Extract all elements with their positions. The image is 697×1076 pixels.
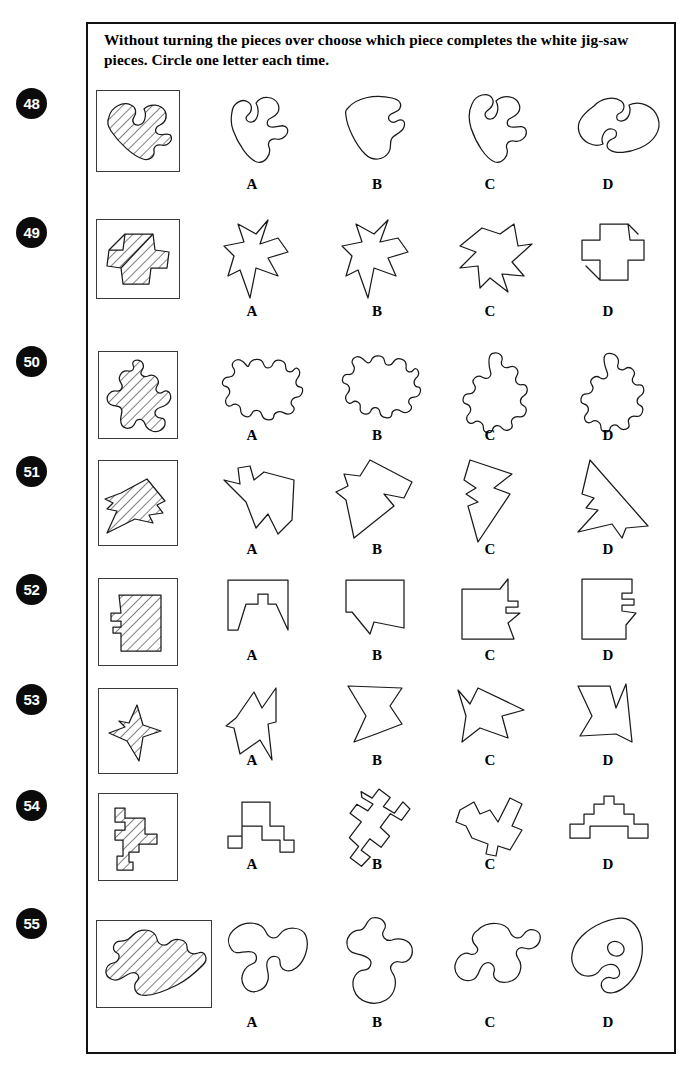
option-letter-48-a: A xyxy=(232,176,272,193)
stimulus-box-53 xyxy=(98,688,178,774)
option-letter-50-c: C xyxy=(470,427,510,444)
question-number-label: 48 xyxy=(23,95,39,112)
option-letter-48-b: B xyxy=(357,176,397,193)
question-number-label: 55 xyxy=(23,915,39,932)
option-letter-52-a: A xyxy=(232,647,272,664)
option-shape-52-a[interactable] xyxy=(224,578,292,634)
option-shape-51-a[interactable] xyxy=(220,458,300,542)
option-letter-54-a: A xyxy=(232,856,272,873)
option-shape-52-c[interactable] xyxy=(458,575,524,643)
option-letter-53-b: B xyxy=(357,752,397,769)
question-number-label: 49 xyxy=(23,224,39,241)
option-shape-53-c[interactable] xyxy=(454,684,526,746)
question-number-51: 51 xyxy=(16,456,47,487)
stimulus-box-52 xyxy=(98,578,178,666)
question-number-label: 54 xyxy=(23,797,39,814)
option-letter-53-c: C xyxy=(470,752,510,769)
option-letter-55-b: B xyxy=(357,1014,397,1031)
option-letter-48-c: C xyxy=(470,176,510,193)
question-number-52: 52 xyxy=(16,574,47,605)
option-shape-48-c[interactable] xyxy=(458,86,532,174)
option-shape-49-c[interactable] xyxy=(452,218,534,302)
option-letter-55-d: D xyxy=(588,1014,628,1031)
question-number-label: 51 xyxy=(23,463,39,480)
option-shape-55-c[interactable] xyxy=(452,918,542,998)
option-letter-53-a: A xyxy=(232,752,272,769)
option-shape-50-d[interactable] xyxy=(580,346,650,440)
option-shape-51-d[interactable] xyxy=(568,454,656,544)
option-shape-51-c[interactable] xyxy=(456,452,524,546)
stimulus-box-50 xyxy=(98,351,178,439)
hatched-jigsaw-piece-55 xyxy=(97,921,213,1009)
question-number-54: 54 xyxy=(16,790,47,821)
hatched-jigsaw-piece-54 xyxy=(99,794,179,882)
option-shape-54-b[interactable] xyxy=(336,786,414,866)
option-shape-53-d[interactable] xyxy=(570,682,636,750)
option-letter-54-b: B xyxy=(357,856,397,873)
hatched-jigsaw-piece-48 xyxy=(97,91,181,173)
option-letter-54-d: D xyxy=(588,856,628,873)
question-number-50: 50 xyxy=(16,346,47,377)
option-shape-53-b[interactable] xyxy=(338,682,406,752)
option-shape-55-a[interactable] xyxy=(226,918,310,1000)
option-shape-50-c[interactable] xyxy=(462,344,532,440)
hatched-jigsaw-piece-52 xyxy=(99,579,179,667)
option-shape-49-a[interactable] xyxy=(220,214,296,306)
question-number-49: 49 xyxy=(16,217,47,248)
question-number-label: 50 xyxy=(23,353,39,370)
option-letter-50-b: B xyxy=(357,427,397,444)
option-letter-49-a: A xyxy=(232,303,272,320)
option-letter-52-c: C xyxy=(470,647,510,664)
option-letter-50-d: D xyxy=(588,427,628,444)
hatched-jigsaw-piece-49 xyxy=(97,220,181,300)
hatched-jigsaw-piece-50 xyxy=(99,352,179,440)
question-number-label: 53 xyxy=(23,691,39,708)
option-shape-49-d[interactable] xyxy=(572,216,650,296)
question-number-55: 55 xyxy=(16,908,47,939)
option-shape-54-c[interactable] xyxy=(452,788,528,866)
option-shape-48-d[interactable] xyxy=(574,92,662,170)
option-letter-51-d: D xyxy=(588,541,628,558)
option-shape-49-b[interactable] xyxy=(336,214,412,306)
stimulus-box-48 xyxy=(96,90,180,172)
option-letter-49-c: C xyxy=(470,303,510,320)
worksheet-page: Without turning the pieces over choose w… xyxy=(0,0,697,1076)
option-letter-50-a: A xyxy=(232,427,272,444)
option-shape-54-a[interactable] xyxy=(224,792,296,856)
option-shape-52-b[interactable] xyxy=(342,578,408,636)
hatched-jigsaw-piece-51 xyxy=(99,461,179,547)
option-shape-52-d[interactable] xyxy=(578,575,642,643)
option-shape-55-b[interactable] xyxy=(344,912,420,1008)
option-letter-51-a: A xyxy=(232,541,272,558)
option-letter-48-d: D xyxy=(588,176,628,193)
stimulus-box-51 xyxy=(98,460,178,546)
option-shape-51-b[interactable] xyxy=(336,454,418,546)
stimulus-box-49 xyxy=(96,219,180,299)
hatched-jigsaw-piece-53 xyxy=(99,689,179,775)
option-letter-53-d: D xyxy=(588,752,628,769)
stimulus-box-54 xyxy=(98,793,178,881)
option-shape-50-b[interactable] xyxy=(342,350,424,424)
option-letter-54-c: C xyxy=(470,856,510,873)
option-letter-51-b: B xyxy=(357,541,397,558)
instructions-line: Without turning the pieces over choose w… xyxy=(104,31,628,68)
question-number-48: 48 xyxy=(16,88,47,119)
option-letter-49-b: B xyxy=(357,303,397,320)
question-number-label: 52 xyxy=(23,581,39,598)
option-letter-52-b: B xyxy=(357,647,397,664)
option-shape-55-d[interactable] xyxy=(566,912,650,1004)
instructions-text: Without turning the pieces over choose w… xyxy=(104,30,660,70)
option-letter-49-d: D xyxy=(588,303,628,320)
option-shape-48-a[interactable] xyxy=(222,88,294,172)
option-letter-55-a: A xyxy=(232,1014,272,1031)
option-shape-54-d[interactable] xyxy=(566,790,652,848)
question-number-53: 53 xyxy=(16,684,47,715)
option-shape-50-a[interactable] xyxy=(222,352,304,422)
option-letter-52-d: D xyxy=(588,647,628,664)
option-letter-51-c: C xyxy=(470,541,510,558)
stimulus-box-55 xyxy=(96,920,212,1008)
option-letter-55-c: C xyxy=(470,1014,510,1031)
option-shape-48-b[interactable] xyxy=(340,88,412,172)
